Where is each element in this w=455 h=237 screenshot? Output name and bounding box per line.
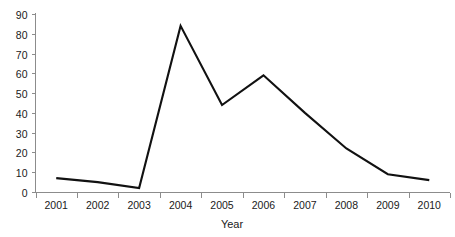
y-tick-label: 40 bbox=[16, 108, 28, 120]
x-tick-label: 2004 bbox=[169, 199, 193, 211]
y-tick-label: 0 bbox=[22, 187, 28, 199]
x-tick-label: 2009 bbox=[376, 199, 400, 211]
y-tick-label: 80 bbox=[16, 29, 28, 41]
x-tick-label: 2007 bbox=[293, 199, 317, 211]
y-tick-label: 20 bbox=[16, 147, 28, 159]
chart-canvas: 0102030405060708090 20012002200320042005… bbox=[0, 0, 455, 237]
y-tick-label: 50 bbox=[16, 88, 28, 100]
y-tick-label: 30 bbox=[16, 128, 28, 140]
x-tick-label: 2006 bbox=[252, 199, 276, 211]
line-chart: 0102030405060708090 20012002200320042005… bbox=[0, 0, 455, 237]
y-tick-label: 70 bbox=[16, 49, 28, 61]
x-tick-label: 2003 bbox=[127, 199, 151, 211]
y-tick-label: 90 bbox=[16, 9, 28, 21]
x-tick-label: 2005 bbox=[210, 199, 234, 211]
x-tick-label: 2010 bbox=[418, 199, 442, 211]
x-tick-label: 2002 bbox=[86, 199, 110, 211]
x-tick-label: 2008 bbox=[335, 199, 359, 211]
y-tick-label: 10 bbox=[16, 167, 28, 179]
x-axis-title: Year bbox=[221, 218, 244, 230]
x-tick-label: 2001 bbox=[45, 199, 69, 211]
y-tick-label: 60 bbox=[16, 68, 28, 80]
